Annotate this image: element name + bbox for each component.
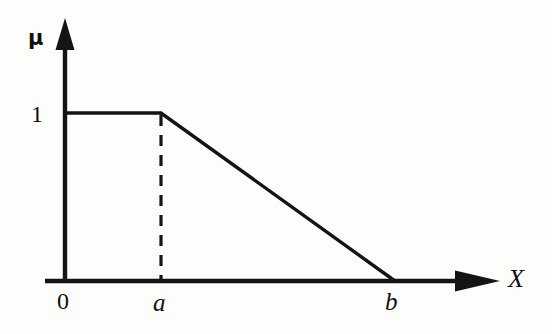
y-axis-label-mu: μ — [28, 28, 43, 49]
x-axis-label: X — [508, 266, 524, 292]
figure-container: μ X 1 0 a b — [0, 0, 552, 334]
x-tick-label-b: b — [385, 289, 398, 314]
membership-function-plot — [0, 0, 552, 334]
y-tick-label-1: 1 — [31, 102, 43, 126]
membership-function-curve — [65, 113, 395, 281]
x-axis-arrowhead-icon — [455, 271, 500, 292]
y-axis-arrowhead-icon — [56, 18, 75, 50]
x-tick-label-0: 0 — [57, 289, 69, 313]
x-tick-label-a: a — [153, 290, 166, 315]
